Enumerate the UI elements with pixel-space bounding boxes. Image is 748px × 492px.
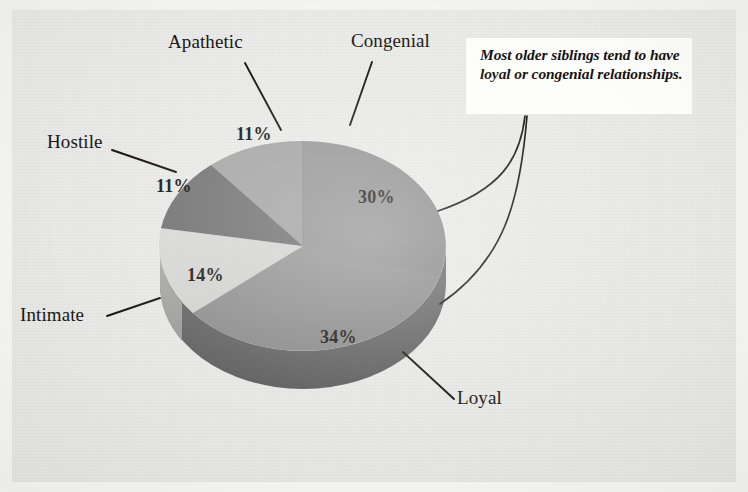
leader-line-apathetic	[245, 63, 281, 130]
leader-line-congenial	[350, 62, 372, 125]
slice-value-loyal: 34%	[320, 327, 357, 348]
callout-box: Most older siblings tend to have loyal o…	[466, 38, 692, 114]
callout-pointer-congenial	[438, 116, 525, 211]
pie-top-face	[159, 141, 446, 351]
slice-label-loyal: Loyal	[457, 388, 502, 408]
slice-label-apathetic: Apathetic	[168, 32, 243, 52]
slice-value-congenial: 30%	[358, 187, 395, 208]
leader-line-loyal	[403, 352, 454, 399]
callout-pointer-loyal	[440, 116, 527, 304]
callout-text: Most older siblings tend to have loyal o…	[480, 46, 686, 84]
slice-label-congenial: Congenial	[351, 31, 430, 51]
slice-label-hostile: Hostile	[47, 132, 103, 152]
slice-value-hostile: 11%	[156, 176, 192, 197]
callout-pointer-lines	[438, 116, 527, 304]
slice-label-intimate: Intimate	[20, 305, 84, 325]
leader-line-intimate	[107, 298, 160, 316]
slice-value-apathetic: 11%	[236, 124, 272, 145]
leader-line-hostile	[112, 150, 176, 172]
pie-chart-figure: Apathetic Congenial Hostile Intimate Loy…	[0, 0, 748, 492]
slice-value-intimate: 14%	[187, 265, 224, 286]
